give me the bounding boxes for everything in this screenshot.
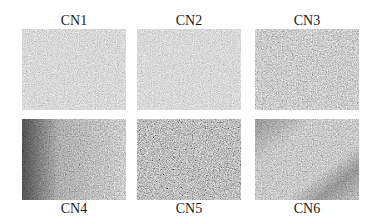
micrograph-cn4 (22, 119, 126, 200)
panel-label-cn4: CN4 (22, 201, 126, 217)
micrograph-cn5 (137, 119, 241, 200)
panel-label-cn3: CN3 (255, 13, 359, 29)
panel-label-cn1: CN1 (22, 13, 126, 29)
micrograph-cn3 (255, 29, 359, 110)
micrograph-cn2 (137, 29, 241, 110)
micrograph-cn1 (22, 29, 126, 110)
panel-label-cn2: CN2 (137, 13, 241, 29)
panel-label-cn5: CN5 (137, 201, 241, 217)
micrograph-cn6 (255, 119, 359, 200)
panel-label-cn6: CN6 (255, 201, 359, 217)
